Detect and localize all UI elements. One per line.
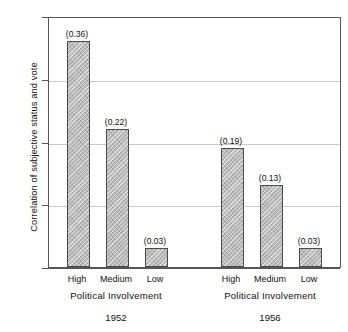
bar-g1-high[interactable]: [67, 41, 90, 267]
group-axis-label-1952: Political Involvement: [70, 290, 162, 301]
gridline: [49, 206, 340, 207]
bar-value-label-g2-medium: (0.13): [259, 173, 281, 183]
bar-g2-low[interactable]: [299, 248, 322, 267]
bar-value-label-g2-high: (0.19): [220, 136, 242, 146]
bar-value-label-g2-low: (0.03): [298, 236, 320, 246]
category-label-g2-low: Low: [301, 274, 318, 284]
y-tick-mark: [42, 268, 49, 269]
bar-value-label-g1-low: (0.03): [144, 236, 166, 246]
bar-value-label-g1-medium: (0.22): [105, 117, 127, 127]
bar-g1-medium[interactable]: [106, 129, 129, 267]
category-label-g1-low: Low: [147, 274, 164, 284]
gridline: [49, 268, 340, 269]
plot-area: [48, 17, 341, 268]
group-year-label-1952: 1952: [105, 312, 126, 323]
y-axis-title: Correlation of subjective status and vot…: [29, 17, 39, 277]
gridline: [49, 81, 340, 82]
bar-g1-low[interactable]: [145, 248, 168, 267]
group-year-label-1956: 1956: [259, 312, 280, 323]
bar-chart-figure: Correlation of subjective status and vot…: [0, 0, 348, 332]
bar-g2-high[interactable]: [221, 148, 244, 267]
category-label-g1-medium: Medium: [100, 274, 132, 284]
group-axis-label-1956: Political Involvement: [224, 290, 316, 301]
category-label-g1-high: High: [68, 274, 87, 284]
category-label-g2-medium: Medium: [254, 274, 286, 284]
gridline: [49, 144, 340, 145]
bar-value-label-g1-high: (0.36): [66, 29, 88, 39]
category-label-g2-high: High: [222, 274, 241, 284]
bar-g2-medium[interactable]: [260, 185, 283, 267]
